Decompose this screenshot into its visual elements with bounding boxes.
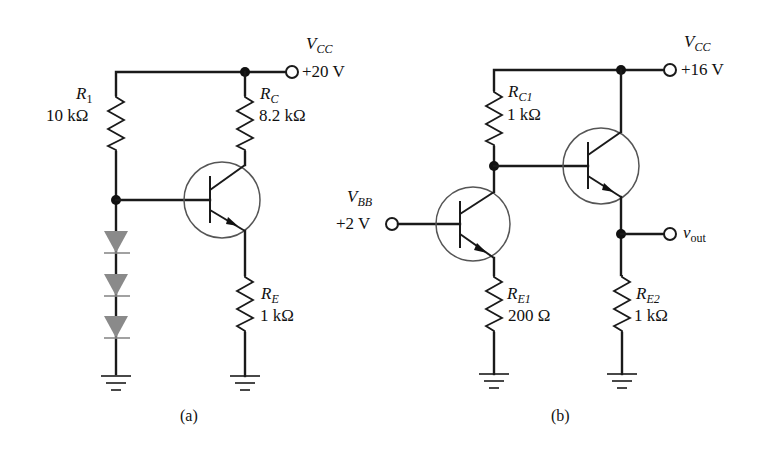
- vcc-terminal-a[interactable]: [286, 66, 298, 78]
- re1-value: 200 Ω: [508, 307, 550, 324]
- diode-icon: [104, 316, 128, 338]
- ground-icon: [479, 374, 509, 388]
- re1-label: RE1: [507, 285, 531, 302]
- vbb-terminal[interactable]: [386, 218, 398, 230]
- ground-icon: [230, 376, 260, 390]
- caption-a: (a): [180, 407, 198, 425]
- vout-terminal[interactable]: [664, 228, 676, 240]
- r1-label: R1: [76, 85, 92, 102]
- rc1-value: 1 kΩ: [507, 106, 541, 123]
- resistor-rc1: [486, 90, 502, 147]
- vout-label: vout: [683, 224, 706, 241]
- ground-icon: [101, 376, 131, 390]
- resistor-re2: [614, 275, 630, 333]
- vcc-value-b: +16 V: [681, 61, 724, 78]
- resistor-rc: [237, 95, 253, 152]
- diode-string: [104, 231, 130, 338]
- resistor-re1: [486, 275, 502, 333]
- re-label: RE: [261, 285, 279, 302]
- schematic-canvas: VCC +20 V R1 10 kΩ RC 8.2 kΩ RE 1 kΩ (a)…: [0, 0, 774, 457]
- diode-icon: [104, 274, 128, 296]
- re-value: 1 kΩ: [260, 307, 294, 324]
- re2-label: RE2: [636, 285, 660, 302]
- vcc-label-b: VCC: [684, 33, 710, 50]
- re2-value: 1 kΩ: [634, 307, 668, 324]
- rc-label: RC: [260, 85, 278, 102]
- ground-icon: [607, 374, 637, 388]
- caption-b: (b): [551, 407, 570, 425]
- vbb-value: +2 V: [336, 215, 370, 232]
- vcc-label-a: VCC: [306, 35, 332, 52]
- diode-icon: [104, 231, 128, 253]
- resistor-r1: [108, 95, 124, 152]
- vcc-terminal-b[interactable]: [664, 64, 676, 76]
- rc-value: 8.2 kΩ: [259, 107, 306, 124]
- vcc-value-a: +20 V: [302, 63, 345, 80]
- vbb-label: VBB: [347, 188, 372, 205]
- resistor-re: [237, 275, 253, 333]
- schematic-drawing: [0, 0, 774, 457]
- r1-value: 10 kΩ: [46, 107, 88, 124]
- rc1-label: RC1: [508, 83, 532, 100]
